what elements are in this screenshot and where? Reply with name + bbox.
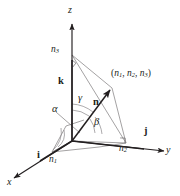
direction-cosines-figure: z y x k j i n n3 n2 n1 (n1, n2, n3) γ α … [0,0,180,196]
projection-line-z-to-tip [72,55,112,88]
n3-index: 3 [56,47,59,54]
x-axis-label: x [7,177,11,187]
figure-canvas [0,0,180,196]
beta-angle-label: β [94,117,99,128]
gamma-angle-label: γ [78,93,82,104]
z-axis-label: z [68,5,72,15]
gamma-arc [72,110,89,116]
alpha-angle-label: α [52,104,58,115]
paren-close: ) [148,68,151,78]
i-vector-label: i [37,150,40,161]
k-vector-label: k [58,76,64,87]
n-vector-label: n [93,97,99,108]
n1-component-label: n1 [49,155,57,165]
n2-index: 2 [124,146,127,153]
gamma-arc-outer [72,104,93,112]
point-coordinates-label: (n1, n2, n3) [111,69,151,79]
n2-component-label: n2 [119,144,127,154]
n3-component-label: n3 [51,45,59,55]
n1-index: 1 [54,157,57,164]
y-axis-label: y [166,145,170,155]
alpha-arc-outer [53,128,61,150]
vertical-drop-line [112,88,126,143]
j-vector-label: j [144,126,148,137]
